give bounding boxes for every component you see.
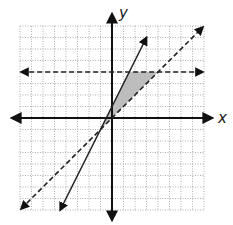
coordinate-plane: x y	[0, 0, 233, 225]
graph-line-1	[60, 38, 146, 211]
x-axis-label: x	[217, 109, 227, 127]
y-axis-label: y	[118, 4, 129, 22]
